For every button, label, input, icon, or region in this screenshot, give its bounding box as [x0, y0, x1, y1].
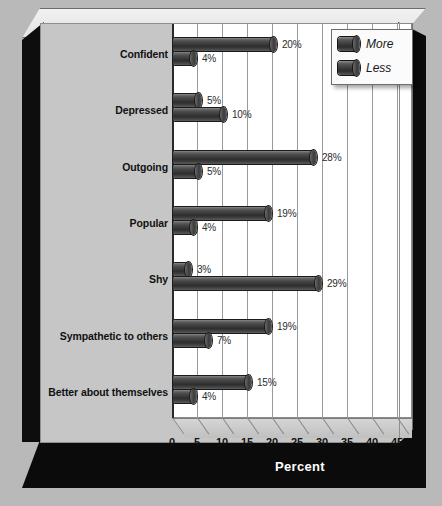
bar-cap	[245, 375, 252, 390]
category-label: Confident	[8, 48, 168, 60]
category-label: Popular	[8, 217, 168, 229]
x-tick-label: 25	[291, 436, 303, 448]
x-tick-label: 15	[241, 436, 253, 448]
bar-value-label: 4%	[202, 221, 216, 234]
category-label: Better about themselves	[8, 386, 168, 398]
bar-less[interactable]	[173, 108, 223, 121]
category-label: Outgoing	[8, 161, 168, 173]
x-tick-label: 30	[316, 436, 328, 448]
x-tick-label: 10	[216, 436, 228, 448]
bar-more[interactable]	[173, 151, 313, 164]
bar-value-label: 5%	[207, 165, 221, 178]
bar-value-label: 3%	[197, 263, 211, 276]
bar-less[interactable]	[173, 277, 318, 290]
x-tick-label: 0	[169, 436, 175, 448]
floor-tick	[322, 417, 334, 434]
legend-label-more: More	[366, 35, 393, 53]
chart-legend: More Less	[331, 29, 413, 85]
floor-tick	[347, 417, 359, 434]
bar-cap	[195, 164, 202, 179]
bar-cap	[310, 150, 317, 165]
bar-cap	[270, 37, 277, 52]
bar-cap	[185, 262, 192, 277]
floor-tick	[397, 417, 409, 434]
gridline	[222, 23, 223, 418]
bar-value-label: 10%	[232, 108, 251, 121]
bar-cap	[265, 319, 272, 334]
bar-value-label: 4%	[202, 52, 216, 65]
floor-tick	[197, 417, 209, 434]
bar-value-label: 19%	[277, 320, 296, 333]
gridline	[297, 23, 298, 418]
bar-cap	[315, 276, 322, 291]
x-axis-ticks: 051015202530354045	[172, 436, 422, 454]
x-tick-label: 35	[341, 436, 353, 448]
bar-value-label: 7%	[217, 334, 231, 347]
bar-value-label: 4%	[202, 390, 216, 403]
gridline	[197, 23, 198, 418]
category-label: Shy	[8, 273, 168, 285]
floor-tick	[247, 417, 259, 434]
bar-more[interactable]	[173, 207, 268, 220]
legend-item-less[interactable]: Less	[338, 58, 410, 78]
x-tick-label: 40	[366, 436, 378, 448]
x-tick-label: 45	[391, 436, 403, 448]
category-label: Depressed	[8, 104, 168, 116]
bar-cap	[190, 220, 197, 235]
bar-cap	[205, 333, 212, 348]
bar-value-label: 15%	[257, 376, 276, 389]
x-tick-label: 20	[266, 436, 278, 448]
plot-floor	[172, 418, 412, 438]
bar-less[interactable]	[173, 334, 208, 347]
bar-cap	[190, 51, 197, 66]
floor-tick	[272, 417, 284, 434]
gridline	[272, 23, 273, 418]
legend-swatch-more-icon	[338, 37, 358, 51]
bar-cap	[195, 93, 202, 108]
bar-cap	[190, 389, 197, 404]
bar-cap	[220, 107, 227, 122]
floor-tick	[372, 417, 384, 434]
bar-value-label: 20%	[282, 38, 301, 51]
bar-value-label: 28%	[322, 151, 341, 164]
legend-label-less: Less	[366, 59, 391, 77]
bar-more[interactable]	[173, 320, 268, 333]
legend-item-more[interactable]: More	[338, 34, 410, 54]
floor-tick	[222, 417, 234, 434]
gridline	[247, 23, 248, 418]
x-tick-label: 5	[194, 436, 200, 448]
chart-figure: ConfidentDepressedOutgoingPopularShySymp…	[0, 0, 442, 506]
bar-more[interactable]	[173, 376, 248, 389]
bar-value-label: 29%	[327, 277, 346, 290]
bar-more[interactable]	[173, 38, 273, 51]
category-axis: ConfidentDepressedOutgoingPopularShySymp…	[4, 23, 168, 418]
x-axis-title: Percent	[200, 459, 400, 474]
floor-tick	[297, 417, 309, 434]
bar-value-label: 5%	[207, 94, 221, 107]
legend-swatch-less-icon	[338, 61, 358, 75]
bar-value-label: 19%	[277, 207, 296, 220]
gridline	[322, 23, 323, 418]
category-label: Sympathetic to others	[8, 330, 168, 342]
bar-cap	[265, 206, 272, 221]
